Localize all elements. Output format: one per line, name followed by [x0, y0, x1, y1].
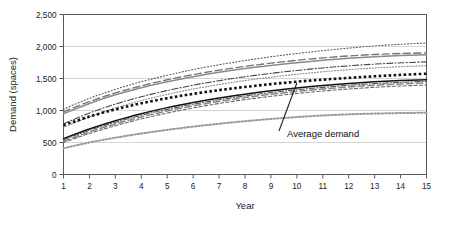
x-tick-label-15: 15	[422, 182, 432, 191]
x-tick-label-2: 2	[87, 182, 92, 191]
x-tick-label-5: 5	[165, 182, 170, 191]
x-tick-label-3: 3	[113, 182, 118, 191]
x-tick-label-1: 1	[61, 182, 66, 191]
x-tick-label-14: 14	[396, 182, 406, 191]
x-axis-tick-labels: 123456789101112131415	[61, 182, 431, 191]
demand-line-chart: 05001,0001,5002,0002,500 123456789101112…	[0, 0, 450, 228]
y-tick-label-2500: 2,500	[36, 11, 57, 20]
x-axis-title: Year	[235, 200, 254, 211]
x-tick-label-10: 10	[292, 182, 302, 191]
x-tick-label-12: 12	[344, 182, 354, 191]
x-tick-label-8: 8	[243, 182, 248, 191]
x-tick-label-6: 6	[191, 182, 196, 191]
x-tick-label-9: 9	[269, 182, 274, 191]
x-tick-label-13: 13	[370, 182, 380, 191]
annotation-average-demand-label: Average demand	[287, 128, 359, 139]
chart-container: 05001,0001,5002,0002,500 123456789101112…	[0, 0, 450, 228]
x-tick-label-7: 7	[217, 182, 222, 191]
y-tick-label-1000: 1,000	[36, 107, 57, 116]
x-tick-label-11: 11	[319, 182, 328, 191]
x-tick-label-4: 4	[139, 182, 144, 191]
y-tick-label-0: 0	[52, 171, 57, 180]
y-tick-label-500: 500	[43, 139, 57, 148]
y-tick-label-1500: 1,500	[36, 75, 57, 84]
y-tick-label-2000: 2,000	[36, 43, 57, 52]
y-axis-title: Demand (spaces)	[7, 57, 18, 132]
